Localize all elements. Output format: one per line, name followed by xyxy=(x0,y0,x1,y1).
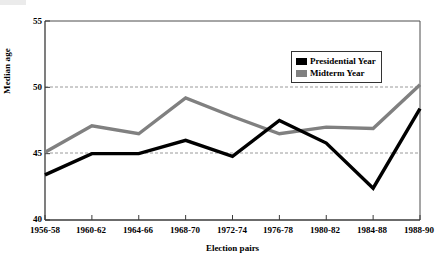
plot-area xyxy=(0,0,437,264)
gridlines xyxy=(45,87,420,153)
series-line-presidential-year xyxy=(45,109,420,189)
legend-item-midterm-year: Midterm Year xyxy=(296,67,376,79)
legend: Presidential Year Midterm Year xyxy=(291,51,382,83)
legend-item-presidential-year: Presidential Year xyxy=(296,55,376,67)
series-line-midterm-year xyxy=(45,85,420,153)
legend-swatch-icon-presidential xyxy=(296,58,307,65)
legend-label-midterm: Midterm Year xyxy=(310,68,364,78)
legend-label-presidential: Presidential Year xyxy=(310,56,376,66)
legend-swatch-icon-midterm xyxy=(296,70,307,77)
chart-figure: Median age Election pairs 55 50 45 40 19… xyxy=(0,0,437,264)
